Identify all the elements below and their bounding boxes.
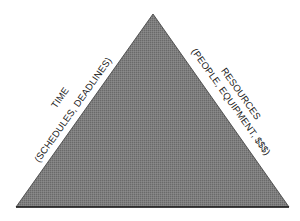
project-triangle-diagram: TIME (SCHEDULES, DEADLINES) RESOURCES (P…: [0, 0, 300, 221]
